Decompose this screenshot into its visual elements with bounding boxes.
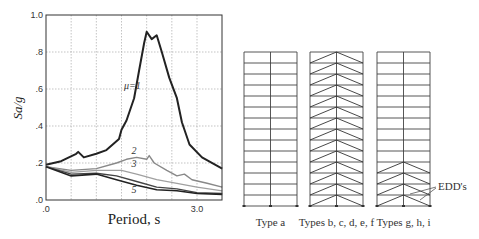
brace <box>377 162 404 173</box>
x-tick-label: 3.0 <box>191 204 204 214</box>
frame-types-b-f: Types b, c, d, e, f <box>299 52 375 228</box>
brace <box>310 118 337 129</box>
brace <box>310 195 337 206</box>
brace <box>337 52 364 63</box>
brace <box>337 63 364 74</box>
edd-label: EDD's <box>438 180 467 192</box>
brace <box>337 173 364 184</box>
frame-label: Types b, c, d, e, f <box>299 216 375 228</box>
brace <box>377 184 404 195</box>
frame-label: Type a <box>256 216 286 228</box>
brace <box>310 140 337 151</box>
edd-annotation: EDD's <box>410 180 467 200</box>
brace <box>337 74 364 85</box>
frame-type-a: Type a <box>243 52 299 228</box>
support <box>429 205 432 207</box>
brace <box>310 74 337 85</box>
brace <box>310 52 337 63</box>
x-axis-label: Period, s <box>108 211 161 227</box>
spectrum-chart: .0.2.4.6.81.0.03.0 μ=1235 Period, s Sa/g <box>0 0 235 239</box>
curve-label: 3 <box>131 158 137 169</box>
y-tick-label: 1.0 <box>30 10 43 20</box>
brace <box>377 195 404 206</box>
brace <box>310 63 337 74</box>
brace <box>310 85 337 96</box>
y-tick-label: .8 <box>35 47 43 57</box>
y-tick-label: .6 <box>35 84 43 94</box>
curve-label: μ=1 <box>123 80 141 91</box>
brace <box>337 184 364 195</box>
y-axis-label: Sa/g <box>10 96 25 120</box>
brace <box>337 96 364 107</box>
brace <box>404 173 431 184</box>
brace <box>310 173 337 184</box>
brace <box>310 96 337 107</box>
brace <box>404 162 431 173</box>
frame-label: Types g, h, i <box>377 216 431 228</box>
frame-types-g-i: Types g, h, i <box>376 52 432 228</box>
brace <box>337 129 364 140</box>
support <box>296 205 299 207</box>
brace <box>310 151 337 162</box>
brace <box>310 184 337 195</box>
y-tick-label: .2 <box>35 158 43 168</box>
x-tick-label: .0 <box>42 204 50 214</box>
support <box>269 205 272 207</box>
curves <box>46 32 222 195</box>
brace <box>310 162 337 173</box>
y-tick-label: .4 <box>35 121 43 131</box>
brace <box>337 151 364 162</box>
brace <box>310 129 337 140</box>
support <box>335 205 338 207</box>
brace <box>337 118 364 129</box>
brace <box>337 140 364 151</box>
brace <box>404 195 431 206</box>
support <box>376 205 379 207</box>
support <box>362 205 365 207</box>
support <box>243 205 246 207</box>
curve-labels: μ=1235 <box>123 80 141 195</box>
brace <box>337 162 364 173</box>
brace <box>377 173 404 184</box>
curve-label: 5 <box>132 184 137 195</box>
support <box>402 205 405 207</box>
curve-label: 2 <box>132 145 137 156</box>
brace <box>310 107 337 118</box>
brace <box>404 184 431 195</box>
brace <box>337 107 364 118</box>
brace <box>337 85 364 96</box>
brace <box>337 195 364 206</box>
support <box>309 205 312 207</box>
